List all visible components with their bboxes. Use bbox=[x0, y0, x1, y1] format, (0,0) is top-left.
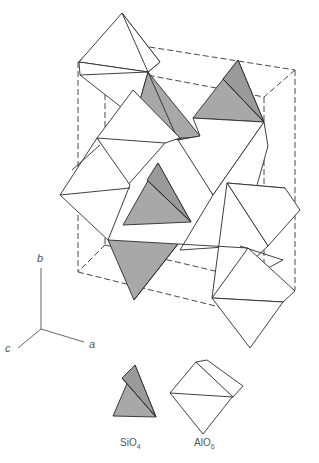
legend-label-sio4: SiO4 bbox=[120, 437, 141, 450]
tetrahedron-lower bbox=[108, 240, 178, 300]
legend-label-alo6-base: AlO bbox=[194, 437, 211, 448]
crystal-structure-diagram bbox=[0, 0, 319, 463]
legend-octahedron-icon bbox=[170, 360, 243, 434]
legend-tetrahedron-icon bbox=[113, 365, 156, 417]
axis-indicator bbox=[18, 268, 84, 348]
legend-label-alo6-sub: 6 bbox=[211, 443, 215, 450]
axis-label-a: a bbox=[89, 338, 95, 350]
legend-label-sio4-sub: 4 bbox=[137, 443, 141, 450]
tetrahedron-upper-right bbox=[193, 60, 264, 122]
axis-label-c: c bbox=[5, 342, 11, 354]
legend-label-alo6: AlO6 bbox=[194, 437, 215, 450]
legend-label-sio4-base: SiO bbox=[120, 437, 137, 448]
axis-label-b: b bbox=[37, 252, 43, 264]
